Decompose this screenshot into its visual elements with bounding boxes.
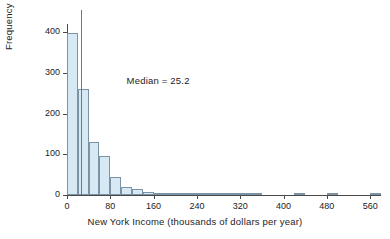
bars-group [67,12,381,183]
histogram-bar [89,142,100,195]
histogram-bar [327,193,338,195]
y-tick-label: 100 [45,149,60,158]
x-tick-mark [284,195,285,199]
median-reference-line [81,10,82,195]
x-tick-mark [67,195,68,199]
histogram-bar [175,193,186,195]
x-tick-mark [240,195,241,199]
histogram-bar [67,33,78,195]
histogram-bar [143,192,154,195]
histogram-bar [240,193,251,195]
x-tick-mark [327,195,328,199]
x-tick-mark [197,195,198,199]
histogram-bar [219,193,230,195]
median-annotation-label: Median = 25.2 [127,75,190,86]
x-tick-label: 480 [307,202,347,211]
histogram-figure: Frequency 0100200300400 0801602403204004… [0,0,390,239]
histogram-bar [99,156,110,195]
plot-area: 0100200300400 080160240320400480560 Medi… [67,12,381,183]
x-tick-label: 320 [220,202,260,211]
histogram-bar [132,189,143,195]
histogram-bar [121,187,132,195]
x-tick-label: 0 [47,202,87,211]
histogram-bar [251,193,262,195]
x-tick-mark [110,195,111,199]
x-tick-label: 240 [177,202,217,211]
y-tick-label: 0 [55,190,60,199]
x-axis-line [67,195,381,196]
y-axis-title: Frequency [3,3,14,50]
histogram-bar [197,193,208,195]
histogram-bar [78,89,89,195]
histogram-bar [154,193,165,195]
histogram-bar [294,193,305,195]
x-axis-title: New York Income (thousands of dollars pe… [0,216,390,227]
histogram-bar [370,193,381,195]
x-tick-mark [154,195,155,199]
y-tick-label: 400 [45,27,60,36]
y-tick-label: 200 [45,109,60,118]
x-tick-mark [370,195,371,199]
x-tick-label: 160 [134,202,174,211]
x-tick-label: 400 [264,202,304,211]
histogram-bar [186,193,197,195]
histogram-bar [110,177,121,195]
y-tick-label: 300 [45,68,60,77]
histogram-bar [164,193,175,195]
histogram-bar [208,193,219,195]
histogram-bar [229,193,240,195]
x-tick-label: 560 [350,202,390,211]
x-tick-label: 80 [90,202,130,211]
